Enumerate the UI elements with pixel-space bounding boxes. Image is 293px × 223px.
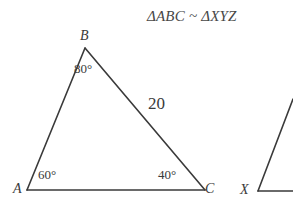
angle-measure-c: 40° [158,168,176,181]
similarity-statement: ΔABC ~ ΔXYZ [147,9,237,24]
vertex-label-c: C [205,182,214,196]
angle-measure-b: 80° [74,62,92,75]
side-length-bc: 20 [148,95,165,112]
vertex-label-b: B [80,29,89,43]
geometry-figure-canvas: ΔABC ~ ΔXYZ A B C X 60° 80° 40° 20 [0,0,293,223]
vertex-label-x: X [240,183,249,197]
segment-BC [85,48,205,190]
vertex-label-a: A [13,182,22,196]
triangle-xyz-outline-partial [258,99,293,191]
angle-measure-a: 60° [38,168,56,181]
segment-XY-partial [258,99,293,191]
figure-line-art [0,0,293,223]
